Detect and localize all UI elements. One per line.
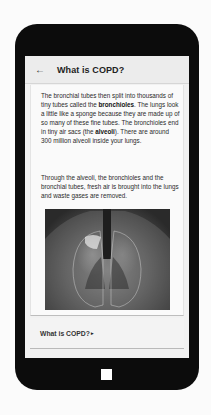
- paragraph-alveoli: Through the alveoli, the bronchioles and…: [41, 173, 181, 200]
- paragraph-bronchioles: The bronchial tubes then split into thou…: [41, 91, 181, 145]
- content-card: The bronchial tubes then split into thou…: [30, 85, 184, 316]
- back-arrow-icon: ←: [35, 64, 45, 75]
- lungs-illustration: [45, 209, 170, 310]
- phone-frame: ← What is COPD? The bronchial tubes then…: [15, 24, 199, 390]
- app-screen: ← What is COPD? The bronchial tubes then…: [25, 56, 189, 358]
- what-is-copd-link[interactable]: What is COPD? ▸: [40, 330, 94, 337]
- bold-term-bronchioles: bronchioles: [98, 101, 134, 108]
- app-bar: ← What is COPD?: [25, 56, 189, 84]
- lungs-drawing-icon: [45, 209, 170, 310]
- related-topic-card[interactable]: What is COPD? ▸: [30, 318, 184, 349]
- home-button[interactable]: [101, 369, 112, 380]
- page-title: What is COPD?: [57, 65, 124, 75]
- back-button[interactable]: ←: [29, 56, 51, 84]
- link-label: What is COPD?: [40, 330, 90, 337]
- chevron-right-icon: ▸: [91, 330, 94, 336]
- bold-term-alveoli: alveoli: [95, 128, 115, 135]
